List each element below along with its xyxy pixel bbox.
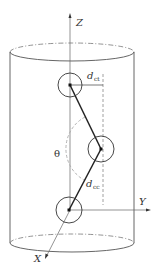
y-axis-arrow-icon [146, 209, 151, 212]
x-axis-label: X [33, 253, 42, 264]
bond-top-middle [70, 85, 101, 149]
d-ct-label: d [87, 70, 93, 81]
bond-middle-bottom [69, 149, 101, 210]
z-axis-arrow-icon [69, 13, 72, 18]
cylinder-top-front [10, 52, 134, 61]
d-ct-subscript: ct [94, 75, 100, 82]
bead-top-center [69, 84, 72, 87]
bead-middle-center [100, 148, 103, 151]
cylinder-bottom-back [10, 234, 134, 243]
d-cc-label: d [86, 178, 92, 189]
theta-label: θ [54, 148, 60, 159]
theta-arc [66, 117, 85, 180]
cylinder-top-back [10, 43, 134, 52]
z-axis-label: Z [75, 17, 84, 28]
x-axis-arrow-icon [45, 254, 49, 260]
y-axis-label: Y [139, 196, 147, 207]
d-cc-subscript: cc [93, 183, 100, 190]
diagram-canvas: Z Y X d ct d cc θ [0, 0, 156, 271]
cylinder-diagram: Z Y X d ct d cc θ [0, 0, 156, 271]
cylinder-bottom-front [10, 243, 134, 252]
bead-bottom-center [68, 209, 71, 212]
